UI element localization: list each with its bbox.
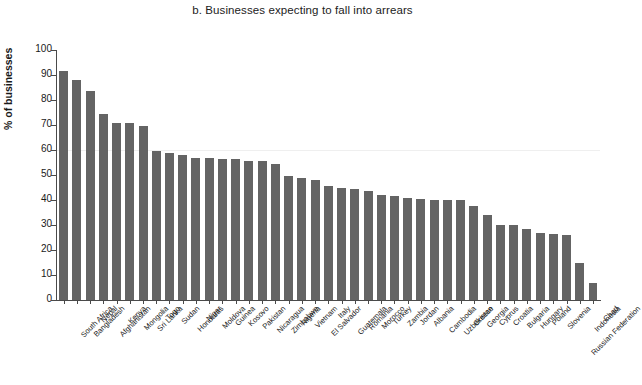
bar (165, 153, 174, 301)
bar-slot (428, 50, 441, 300)
bar (364, 191, 373, 300)
bar-slot (269, 50, 282, 300)
bar (59, 71, 68, 300)
bar (311, 180, 320, 300)
bar-slot (586, 50, 599, 300)
bar-slot (348, 50, 361, 300)
bar-slot (189, 50, 202, 300)
bar (178, 155, 187, 300)
bar (390, 196, 399, 300)
y-tick-label: 0 (12, 293, 52, 304)
bar-slot (388, 50, 401, 300)
bar (549, 234, 558, 300)
bar (377, 195, 386, 300)
y-tick-label: 30 (12, 218, 52, 229)
bar (152, 151, 161, 300)
bar-slot (256, 50, 269, 300)
bar-slot (136, 50, 149, 300)
bar (139, 126, 148, 300)
bar (271, 164, 280, 300)
bar-slot (494, 50, 507, 300)
bar (456, 200, 465, 300)
bar (205, 158, 214, 301)
bar (324, 186, 333, 300)
bar (99, 114, 108, 300)
y-tick-label: 80 (12, 93, 52, 104)
bar-slot (375, 50, 388, 300)
bar-slot (507, 50, 520, 300)
bar-series (57, 50, 600, 300)
bar (536, 233, 545, 301)
bar (191, 158, 200, 301)
bar (218, 159, 227, 300)
bar-slot (282, 50, 295, 300)
bar (231, 159, 240, 300)
bar-slot (216, 50, 229, 300)
y-tick-label: 50 (12, 168, 52, 179)
bar-slot (481, 50, 494, 300)
bar (86, 91, 95, 300)
y-tick-label: 10 (12, 268, 52, 279)
bar-slot (150, 50, 163, 300)
y-tick-label: 100 (12, 43, 52, 54)
bar-slot (123, 50, 136, 300)
y-tick-label: 60 (12, 143, 52, 154)
bar (112, 123, 121, 301)
bar (443, 200, 452, 300)
bar-slot (322, 50, 335, 300)
bar-slot (335, 50, 348, 300)
bar-slot (520, 50, 533, 300)
bar-slot (83, 50, 96, 300)
bar (337, 188, 346, 301)
bar-slot (229, 50, 242, 300)
y-tick-label: 90 (12, 68, 52, 79)
bar-slot (573, 50, 586, 300)
bar (589, 283, 598, 301)
bar-slot (454, 50, 467, 300)
bar-slot (295, 50, 308, 300)
bar-slot (547, 50, 560, 300)
bar (72, 80, 81, 300)
bar (125, 123, 134, 301)
bar-slot (414, 50, 427, 300)
bar-slot (533, 50, 546, 300)
bar (496, 225, 505, 300)
bar (483, 215, 492, 300)
bar-slot (560, 50, 573, 300)
bar-slot (57, 50, 70, 300)
bar-slot (70, 50, 83, 300)
bar (469, 206, 478, 300)
x-axis-labels: South AfricaBangladeshNepalAfghanistanKe… (57, 304, 600, 384)
bar (522, 229, 531, 300)
bar (562, 235, 571, 300)
bar (258, 161, 267, 300)
chart-title: b. Businesses expecting to fall into arr… (0, 4, 605, 16)
bar (430, 200, 439, 300)
bar-slot (176, 50, 189, 300)
bar (575, 263, 584, 301)
bar-slot (110, 50, 123, 300)
bar-slot (361, 50, 374, 300)
y-tick-label: 20 (12, 243, 52, 254)
bar (350, 189, 359, 300)
bar-slot (97, 50, 110, 300)
bar (284, 176, 293, 300)
bar-slot (401, 50, 414, 300)
bar (403, 198, 412, 301)
bar (416, 199, 425, 300)
y-tick-label: 40 (12, 193, 52, 204)
bar-slot (467, 50, 480, 300)
bar (297, 178, 306, 301)
bar-slot (163, 50, 176, 300)
bar-slot (308, 50, 321, 300)
bar (244, 161, 253, 300)
bar-slot (203, 50, 216, 300)
y-tick-label: 70 (12, 118, 52, 129)
bar-slot (242, 50, 255, 300)
bar (509, 225, 518, 300)
bar-slot (441, 50, 454, 300)
